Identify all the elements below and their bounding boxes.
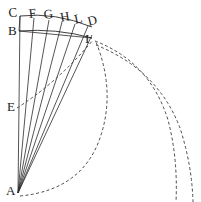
fan-line-a-i xyxy=(18,35,92,193)
point-label-a: A xyxy=(6,184,15,197)
segment-B-row xyxy=(19,31,92,38)
trajectory-outer xyxy=(96,45,193,202)
fan-lines-group xyxy=(18,16,92,193)
point-label-e: E xyxy=(7,100,15,113)
fan-line-a-f xyxy=(18,18,34,193)
dashed-curves-group xyxy=(17,40,193,202)
fan-line-a-d xyxy=(18,26,88,193)
point-label-h: H xyxy=(59,9,71,23)
point-label-f: F xyxy=(28,6,37,20)
point-label-g: G xyxy=(43,7,54,21)
fan-line-a-h xyxy=(18,22,62,193)
point-label-c: C xyxy=(8,5,18,19)
trajectory-A-inner-loop xyxy=(20,42,107,196)
fan-line-a-c xyxy=(18,16,20,193)
point-label-b: B xyxy=(8,24,17,37)
figure-canvas xyxy=(0,0,201,202)
fan-line-a-l xyxy=(18,24,75,193)
geometric-figure: CFGHLDBIEA xyxy=(0,0,201,202)
trajectory-mid xyxy=(95,41,176,202)
fan-line-a-g xyxy=(18,20,49,193)
point-label-i: I xyxy=(85,32,89,45)
